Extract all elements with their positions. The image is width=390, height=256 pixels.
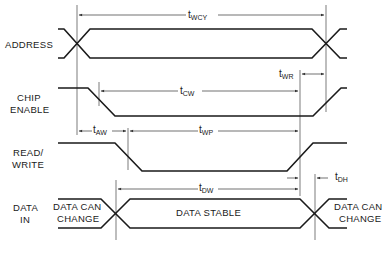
data-in-label-line2: IN <box>20 214 30 225</box>
twr-dimension: tWR <box>279 68 324 80</box>
svg-text:tWCY: tWCY <box>188 9 207 21</box>
timing-diagram: ADDRESS CHIP ENABLE READ/ WRITE DATA IN … <box>0 0 390 256</box>
svg-text:tAW: tAW <box>93 124 107 136</box>
svg-text:tCW: tCW <box>180 85 195 97</box>
data-can-change-right-line2: CHANGE <box>339 213 381 224</box>
address-waveform <box>58 29 347 58</box>
chip-enable-label-line1: CHIP <box>17 92 41 103</box>
data-in-label-line1: DATA <box>13 202 38 213</box>
taw-dimension: tAW <box>79 124 126 136</box>
tdw-dimension: tDW <box>118 182 298 194</box>
chip-enable-waveform <box>58 88 347 116</box>
address-label: ADDRESS <box>5 39 53 50</box>
svg-text:tWP: tWP <box>199 124 213 136</box>
svg-text:tDW: tDW <box>199 182 214 194</box>
read-write-label-line1: READ/ <box>13 147 44 158</box>
tcw-dimension: tCW <box>101 85 298 97</box>
read-write-waveform <box>58 143 347 171</box>
svg-text:tDH: tDH <box>335 171 348 183</box>
chip-enable-label-line2: ENABLE <box>10 104 49 115</box>
data-can-change-left-line2: CHANGE <box>57 213 99 224</box>
data-can-change-left-line1: DATA CAN <box>53 201 102 212</box>
read-write-label-line2: WRITE <box>12 159 44 170</box>
data-stable-label: DATA STABLE <box>176 207 241 218</box>
twcy-dimension: tWCY <box>79 9 324 21</box>
svg-text:tWR: tWR <box>279 68 293 80</box>
tdh-dimension: tDH <box>287 171 348 183</box>
twp-dimension: tWP <box>130 124 298 136</box>
data-can-change-right-line1: DATA CAN <box>334 201 383 212</box>
